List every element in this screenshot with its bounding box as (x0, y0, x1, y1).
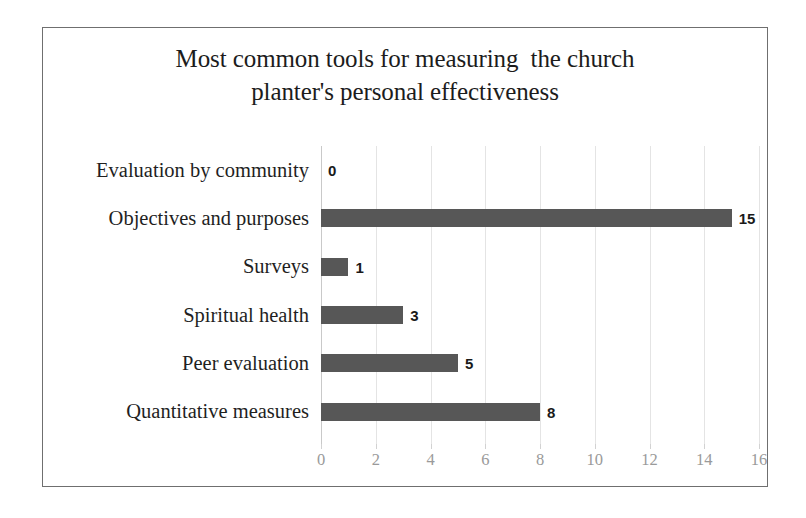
x-tick-mark (704, 444, 705, 449)
bar-value-label: 8 (547, 403, 555, 420)
category-label: Surveys (51, 255, 321, 278)
bar-track: 15 (321, 194, 759, 242)
bar[interactable] (321, 306, 403, 324)
x-tick-mark (595, 444, 596, 449)
category-label: Objectives and purposes (51, 207, 321, 230)
category-label: Peer evaluation (51, 352, 321, 375)
bar-track: 3 (321, 291, 759, 339)
x-tick-mark (650, 444, 651, 449)
bar-row: Peer evaluation5 (51, 339, 759, 387)
bar-row: Surveys1 (51, 243, 759, 291)
bar-track: 0 (321, 146, 759, 194)
chart-title-line-2: planter's personal effectiveness (43, 75, 767, 108)
x-tick-label: 8 (536, 450, 544, 470)
x-tick-label: 0 (317, 450, 325, 470)
bar-value-label: 0 (328, 162, 336, 179)
x-tick-label: 4 (426, 450, 434, 470)
bar[interactable] (321, 354, 458, 372)
x-tick-label: 6 (481, 450, 489, 470)
x-tick-label: 16 (751, 450, 768, 470)
bar-row: Spiritual health3 (51, 291, 759, 339)
x-tick-mark (376, 444, 377, 449)
bar-value-label: 3 (410, 307, 418, 324)
category-label: Evaluation by community (51, 159, 321, 182)
x-tick-label: 14 (696, 450, 713, 470)
bar-track: 5 (321, 339, 759, 387)
category-label: Spiritual health (51, 304, 321, 327)
category-label: Quantitative measures (51, 400, 321, 423)
x-axis-tick-labels: 0246810121416 (321, 450, 759, 476)
x-tick-mark (485, 444, 486, 449)
bar[interactable] (321, 209, 732, 227)
x-tick-mark (321, 444, 322, 449)
chart-title: Most common tools for measuring the chur… (43, 42, 767, 108)
chart-frame: Most common tools for measuring the chur… (42, 27, 768, 487)
bar-track: 8 (321, 388, 759, 436)
chart-title-line-1: Most common tools for measuring the chur… (43, 42, 767, 75)
bar-value-label: 1 (355, 258, 363, 275)
x-tick-label: 10 (587, 450, 604, 470)
bar-track: 1 (321, 243, 759, 291)
x-tick-mark (540, 444, 541, 449)
bar-value-label: 15 (739, 210, 756, 227)
bar-row: Evaluation by community0 (51, 146, 759, 194)
bar-row: Objectives and purposes15 (51, 194, 759, 242)
gridline (759, 146, 760, 444)
bar[interactable] (321, 258, 348, 276)
x-tick-label: 2 (372, 450, 380, 470)
bar[interactable] (321, 403, 540, 421)
bar-row: Quantitative measures8 (51, 388, 759, 436)
x-tick-mark (431, 444, 432, 449)
x-tick-mark (759, 444, 760, 449)
bar-rows: Evaluation by community0Objectives and p… (51, 146, 759, 436)
plot-region: Evaluation by community0Objectives and p… (51, 138, 759, 478)
bar-value-label: 5 (465, 355, 473, 372)
x-tick-label: 12 (641, 450, 658, 470)
